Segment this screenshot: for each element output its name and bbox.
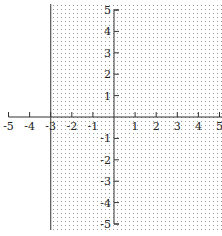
inequality-plot: -5-4-3-2-112345 54321-1-2-3-4-5 — [0, 0, 222, 236]
y-tick-label: 5 — [104, 4, 111, 17]
x-tick-label: 3 — [174, 120, 181, 133]
y-tick-label: -5 — [100, 218, 111, 231]
x-tick-label: 2 — [153, 120, 160, 133]
y-tick-label: -3 — [100, 175, 111, 188]
x-tick-label: -5 — [3, 120, 14, 133]
x-tick-label: 4 — [195, 120, 202, 133]
y-tick-label: -4 — [100, 197, 111, 210]
y-tick-label: 4 — [104, 25, 111, 38]
dotted-shading — [51, 2, 222, 230]
shaded-region — [51, 2, 222, 230]
y-tick-label: 1 — [104, 90, 111, 103]
x-tick-label: -3 — [45, 120, 56, 133]
y-tick-label: 2 — [104, 68, 111, 81]
x-tick-label: 5 — [216, 120, 222, 133]
x-tick-label: 1 — [132, 120, 139, 133]
y-tick-label: 3 — [104, 47, 111, 60]
x-tick-label: -1 — [88, 120, 99, 133]
y-tick-label: -2 — [100, 154, 111, 167]
y-tick-label: -1 — [100, 132, 111, 145]
x-tick-label: -2 — [66, 120, 77, 133]
x-tick-label: -4 — [24, 120, 35, 133]
